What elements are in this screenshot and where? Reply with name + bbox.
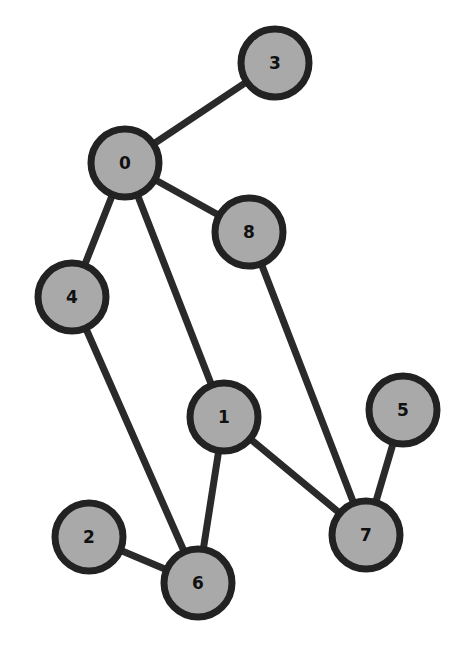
node-5: 5 — [369, 376, 437, 444]
node-4: 4 — [38, 263, 106, 331]
node-label: 4 — [66, 287, 78, 307]
node-3: 3 — [241, 29, 309, 97]
node-6: 6 — [164, 549, 232, 617]
node-layer: 012345678 — [38, 29, 437, 617]
node-label: 6 — [192, 573, 204, 593]
node-0: 0 — [91, 129, 159, 197]
node-label: 0 — [119, 153, 131, 173]
graph-diagram: 012345678 — [0, 0, 474, 658]
node-8: 8 — [215, 198, 283, 266]
node-label: 7 — [360, 525, 372, 545]
node-7: 7 — [332, 501, 400, 569]
edge-0-1 — [125, 163, 224, 417]
node-label: 2 — [83, 527, 95, 547]
node-2: 2 — [55, 503, 123, 571]
node-1: 1 — [190, 383, 258, 451]
node-label: 1 — [218, 407, 230, 427]
node-label: 8 — [243, 222, 255, 242]
node-label: 5 — [397, 400, 409, 420]
node-label: 3 — [269, 53, 281, 73]
